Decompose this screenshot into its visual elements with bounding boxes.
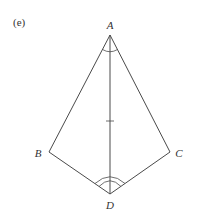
kite-diagram: (e) A B C D [0,0,198,219]
segment-ac [110,35,170,152]
vertex-label-d: D [105,199,114,211]
kite-edges [49,35,170,194]
vertex-label-b: B [35,147,42,159]
vertex-labels: A B C D [35,19,184,211]
subfigure-label: (e) [13,16,26,29]
vertex-label-c: C [175,147,183,159]
segment-cd [110,152,170,194]
segment-ab [49,35,110,152]
vertex-label-a: A [106,19,114,31]
segment-bd [49,152,110,194]
